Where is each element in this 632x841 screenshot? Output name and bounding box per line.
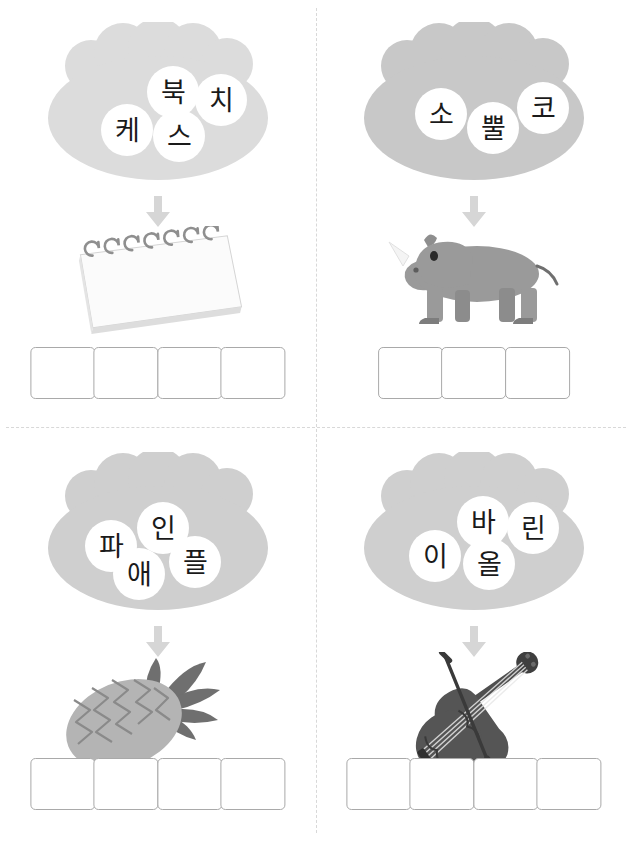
answer-box[interactable] [221,758,286,810]
answer-box[interactable] [157,347,222,399]
violin-illustration [374,652,574,770]
answer-box[interactable] [94,347,159,399]
syllable-blob-violin: 바 린 이 올 [359,452,589,622]
answer-box[interactable] [157,758,222,810]
answer-boxes-pineapple [30,758,285,810]
answer-box[interactable] [221,347,286,399]
rhinoceros-illustration [369,226,579,336]
answer-box[interactable] [505,347,570,399]
puzzle-cell-pineapple: 파 인 애 플 [0,420,316,841]
answer-box[interactable] [30,758,95,810]
answer-boxes-rhinoceros [378,347,570,399]
answer-box[interactable] [30,347,95,399]
syllable-chip[interactable]: 플 [169,536,221,588]
answer-box[interactable] [94,758,159,810]
syllable-blob-pineapple: 파 인 애 플 [43,452,273,622]
answer-box[interactable] [442,347,507,399]
syllable-blob-rhinoceros: 소 뿔 코 [359,22,589,192]
answer-box[interactable] [346,758,411,810]
puzzle-cell-rhinoceros: 소 뿔 코 [316,0,632,420]
sketchbook-illustration [53,226,263,336]
syllable-chip[interactable]: 스 [153,110,205,162]
down-arrow-icon [145,196,171,228]
down-arrow-icon [461,196,487,228]
answer-boxes-violin [346,758,601,810]
answer-box[interactable] [537,758,602,810]
syllable-chip[interactable]: 린 [507,502,559,554]
answer-box[interactable] [378,347,443,399]
puzzle-cell-sketchbook: 북 치 케 스 [0,0,316,420]
worksheet-page: 북 치 케 스 [0,0,632,841]
answer-box[interactable] [473,758,538,810]
puzzle-cell-violin: 바 린 이 올 [316,420,632,841]
syllable-chip[interactable]: 뿔 [467,102,519,154]
syllable-chip[interactable]: 코 [517,82,569,134]
syllable-chip[interactable]: 애 [113,548,165,600]
syllable-chip[interactable]: 치 [195,74,247,126]
syllable-chip[interactable]: 케 [101,104,153,156]
answer-boxes-sketchbook [30,347,285,399]
pineapple-illustration [58,652,258,770]
syllable-chip[interactable]: 소 [415,88,467,140]
answer-box[interactable] [410,758,475,810]
syllable-chip[interactable]: 올 [463,538,515,590]
syllable-chip[interactable]: 이 [409,530,461,582]
syllable-blob-sketchbook: 북 치 케 스 [43,22,273,192]
